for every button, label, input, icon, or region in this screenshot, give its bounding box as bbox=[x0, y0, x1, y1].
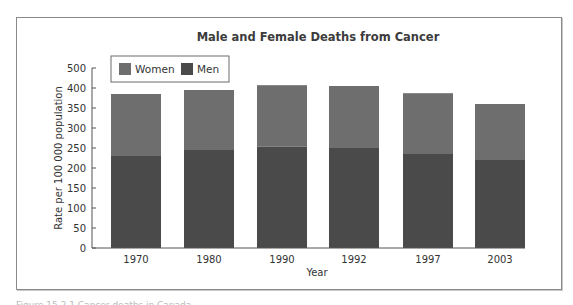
bar-group bbox=[111, 85, 525, 248]
bar-segment-women bbox=[475, 104, 525, 159]
legend: Women Men bbox=[111, 56, 229, 82]
figure-caption: Figure 15.2.1 Cancer deaths in Canada bbox=[16, 298, 191, 305]
bar-segment-women bbox=[403, 93, 453, 153]
bar-segment-women bbox=[257, 85, 307, 147]
bar-segment-women bbox=[111, 94, 161, 156]
y-tick-label: 150 bbox=[67, 183, 86, 194]
bar-1980 bbox=[184, 90, 234, 248]
x-tick-label: 1997 bbox=[415, 254, 440, 265]
legend-label-women: Women bbox=[135, 63, 175, 75]
legend-swatch-women bbox=[119, 63, 131, 75]
bar-segment-men bbox=[257, 147, 307, 248]
y-tick-label: 50 bbox=[73, 223, 86, 234]
stacked-bar-chart: Male and Female Deaths from Cancer 05010… bbox=[0, 0, 573, 305]
y-tick-label: 0 bbox=[80, 243, 86, 254]
x-tick-label: 1990 bbox=[269, 254, 294, 265]
y-tick-label: 250 bbox=[67, 143, 86, 154]
x-tick-label: 1980 bbox=[196, 254, 221, 265]
bar-2003 bbox=[475, 104, 525, 248]
x-axis-label: Year bbox=[305, 267, 328, 278]
y-tick-label: 500 bbox=[67, 63, 86, 74]
bar-1970 bbox=[111, 94, 161, 248]
x-axis: 197019801990199219972003 bbox=[92, 248, 525, 265]
bar-1990 bbox=[257, 85, 307, 248]
bar-segment-men bbox=[475, 159, 525, 248]
y-tick-label: 200 bbox=[67, 163, 86, 174]
y-tick-label: 300 bbox=[67, 123, 86, 134]
y-tick-label: 100 bbox=[67, 203, 86, 214]
bar-segment-men bbox=[329, 147, 379, 248]
y-axis: 050100150200250300350400500 bbox=[67, 63, 96, 254]
chart-title: Male and Female Deaths from Cancer bbox=[197, 30, 440, 44]
bar-1997 bbox=[403, 93, 453, 248]
legend-swatch-men bbox=[181, 63, 193, 75]
bar-segment-men bbox=[403, 153, 453, 248]
x-tick-label: 1970 bbox=[123, 254, 148, 265]
bar-segment-women bbox=[329, 86, 379, 147]
y-tick-label: 400 bbox=[67, 83, 86, 94]
bar-1992 bbox=[329, 86, 379, 248]
x-tick-label: 1992 bbox=[341, 254, 366, 265]
legend-label-men: Men bbox=[197, 63, 219, 75]
y-axis-label: Rate per 100 000 population bbox=[53, 86, 64, 230]
bar-segment-men bbox=[111, 156, 161, 248]
y-tick-label: 350 bbox=[67, 103, 86, 114]
x-tick-label: 2003 bbox=[487, 254, 512, 265]
bar-segment-men bbox=[184, 150, 234, 248]
bar-segment-women bbox=[184, 90, 234, 150]
